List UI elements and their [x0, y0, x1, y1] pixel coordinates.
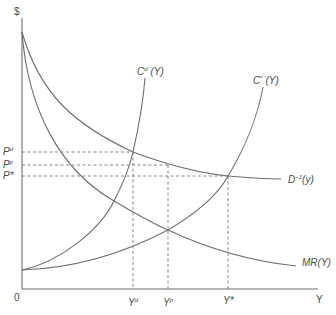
x-axis-label: Y	[316, 295, 323, 305]
yd-label: Yd	[128, 297, 138, 308]
pd-label: Pd	[3, 146, 13, 157]
demand-curve-label: D−1(y)	[288, 174, 314, 185]
origin-label: 0	[14, 293, 20, 303]
economics-diagram	[0, 0, 336, 315]
marginal-revenue-label: MR(Y)	[302, 258, 331, 268]
marginal-cost-star-label: C* ′(Y)	[253, 75, 279, 86]
yp-label: Yp	[163, 297, 173, 308]
pp-label: Pp	[3, 159, 13, 170]
pstar-label: P*	[3, 171, 14, 181]
marginal-cost-d-label: Cd ′(Y)	[137, 66, 164, 77]
ystar-label: Y*	[223, 296, 234, 306]
demand-curve	[22, 32, 281, 179]
y-axis-label: $	[14, 7, 20, 17]
marginal-cost-d-curve	[22, 78, 145, 270]
marginal-cost-star-curve	[22, 87, 263, 270]
